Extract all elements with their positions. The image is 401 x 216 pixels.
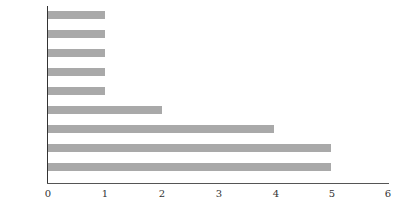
bar <box>48 125 274 133</box>
x-tick-label: 3 <box>209 188 229 199</box>
bar <box>48 163 331 171</box>
bar <box>48 30 105 38</box>
bar <box>48 144 331 152</box>
bar <box>48 68 105 76</box>
bar <box>48 87 105 95</box>
x-axis-line <box>47 183 389 184</box>
bar <box>48 106 162 114</box>
x-tick-label: 2 <box>152 188 172 199</box>
x-tick-label: 4 <box>266 188 286 199</box>
bar <box>48 11 105 19</box>
horizontal-bar-chart: 西安 长沙 玉林 武汉 哈尔滨 山东 北京 江浙沪 全国 0 1 2 3 4 5… <box>0 0 401 216</box>
x-tick-label: 0 <box>38 188 58 199</box>
x-tick-label: 6 <box>378 188 398 199</box>
x-tick-label: 1 <box>95 188 115 199</box>
bar <box>48 49 105 57</box>
x-tick-label: 5 <box>322 188 342 199</box>
